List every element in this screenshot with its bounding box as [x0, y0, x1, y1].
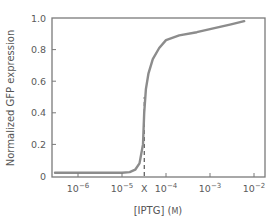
- x-tick-label: 10−5: [111, 182, 133, 194]
- x-axis: 10−610−5X10−410−310−2: [67, 173, 265, 194]
- x-tick-label: 10−2: [243, 182, 265, 194]
- x-tick-label: 10−3: [199, 182, 221, 194]
- plot-area: [52, 18, 265, 177]
- y-tick-label: 0.6: [31, 76, 46, 87]
- y-tick-label: 0.2: [31, 139, 46, 150]
- dose-response-chart: 10−610−5X10−410−310−2 00.20.40.60.81.0 […: [0, 0, 278, 220]
- y-axis-label: Normalized GFP expression: [5, 30, 16, 167]
- plot-frame: [52, 18, 265, 177]
- y-tick-label: 0: [40, 171, 46, 182]
- x-tick-label: 10−6: [67, 182, 90, 194]
- x-tick-label: 10−4: [155, 182, 178, 194]
- y-tick-label: 0.4: [31, 107, 46, 118]
- y-tick-label: 1.0: [31, 13, 46, 24]
- x-tick-label: X: [141, 183, 148, 194]
- response-curve: [55, 21, 244, 173]
- y-tick-label: 0.8: [31, 44, 46, 55]
- x-axis-label: [IPTG] (M): [134, 205, 183, 216]
